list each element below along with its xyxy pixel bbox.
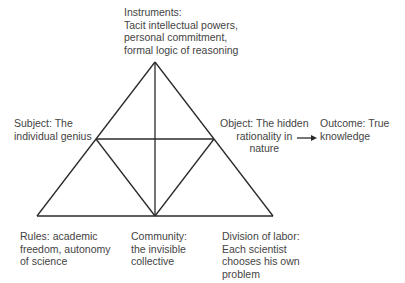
edge-subject-to-community: [96, 139, 155, 216]
node-rules: Rules: academic freedom, autonomy of sci…: [20, 230, 110, 268]
node-object: Object: The hidden rationality in nature: [220, 117, 309, 155]
node-division-of-labor: Division of labor: Each scientist choose…: [222, 230, 300, 280]
node-instruments: Instruments: Tacit intellectual powers, …: [124, 6, 238, 56]
node-subject: Subject: The individual genius: [14, 117, 92, 142]
node-outcome: Outcome: True knowledge: [320, 117, 389, 142]
edge-object-to-community: [155, 139, 214, 216]
arrowhead-icon: [311, 135, 317, 141]
node-community: Community: the invisible collective: [131, 230, 187, 268]
